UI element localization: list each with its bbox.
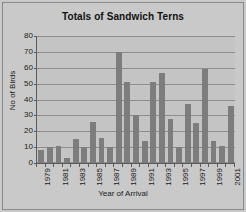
bar-slot	[46, 36, 55, 163]
bar-2001	[228, 106, 234, 163]
x-tick-mark	[139, 164, 140, 167]
x-tick-label-1991: 1991	[148, 168, 156, 186]
bar-slot	[175, 36, 184, 163]
x-axis-title: Year of Arrival	[0, 189, 246, 198]
bar-1995	[176, 147, 182, 163]
x-tick-mark	[88, 164, 89, 167]
y-tick-label-0: 0	[29, 159, 33, 167]
bar-1992	[150, 82, 156, 163]
bar-2000	[219, 146, 225, 163]
x-tick-mark	[131, 164, 132, 167]
bar-1991	[142, 141, 148, 163]
y-tick-label-50: 50	[24, 80, 33, 88]
bar-slot	[218, 36, 227, 163]
bar-slot	[166, 36, 175, 163]
x-tick-mark	[105, 164, 106, 167]
bar-1990	[133, 115, 139, 163]
x-tick-label-1979: 1979	[44, 168, 52, 186]
bar-slot	[37, 36, 46, 163]
bar-1987	[107, 147, 113, 163]
chart-screenshot: Totals of Sandwich Terns No of Birds 010…	[0, 0, 246, 212]
y-tick-label-10: 10	[24, 143, 33, 151]
bar-slot	[114, 36, 123, 163]
plot-wrapper: 01020304050607080 1979198119831985198719…	[36, 36, 234, 163]
bar-series	[37, 36, 235, 163]
bar-slot	[149, 36, 158, 163]
bar-slot	[106, 36, 115, 163]
x-tick-mark	[70, 164, 71, 167]
y-tick-label-80: 80	[24, 32, 33, 40]
bar-1993	[159, 73, 165, 163]
x-tick-mark	[182, 164, 183, 167]
x-tick-mark	[200, 164, 201, 167]
chart-title: Totals of Sandwich Terns	[0, 11, 246, 22]
bar-1981	[56, 146, 62, 163]
bar-slot	[209, 36, 218, 163]
bar-slot	[140, 36, 149, 163]
bar-slot	[192, 36, 201, 163]
bar-slot	[89, 36, 98, 163]
bar-slot	[54, 36, 63, 163]
x-tick-label-2001: 2001	[234, 168, 242, 186]
bar-1998	[202, 69, 208, 163]
bar-slot	[201, 36, 210, 163]
x-tick-mark	[122, 164, 123, 167]
bar-1979	[38, 150, 44, 163]
x-tick-mark	[62, 164, 63, 167]
bar-slot	[123, 36, 132, 163]
y-tick-label-70: 70	[24, 48, 33, 56]
x-tick-mark	[36, 164, 37, 167]
bar-1980	[47, 147, 53, 163]
bar-slot	[226, 36, 235, 163]
x-tick-label-1999: 1999	[216, 168, 224, 186]
x-tick-mark	[165, 164, 166, 167]
x-tick-mark	[217, 164, 218, 167]
x-tick-mark	[174, 164, 175, 167]
bar-slot	[97, 36, 106, 163]
y-tick-label-60: 60	[24, 64, 33, 72]
x-tick-mark	[157, 164, 158, 167]
x-tick-mark	[148, 164, 149, 167]
x-tick-label-1987: 1987	[113, 168, 121, 186]
x-tick-label-1989: 1989	[130, 168, 138, 186]
x-tick-label-1981: 1981	[62, 168, 70, 186]
bar-slot	[183, 36, 192, 163]
x-tick-mark	[208, 164, 209, 167]
bar-slot	[80, 36, 89, 163]
x-tick-mark	[113, 164, 114, 167]
bar-1999	[211, 141, 217, 163]
x-tick-label-1985: 1985	[96, 168, 104, 186]
x-tick-label-1995: 1995	[182, 168, 190, 186]
bar-slot	[132, 36, 141, 163]
plot-area: 01020304050607080	[36, 36, 235, 164]
bar-slot	[158, 36, 167, 163]
bar-1996	[185, 104, 191, 163]
bar-slot	[63, 36, 72, 163]
bar-1985	[90, 122, 96, 163]
bar-1983	[73, 139, 79, 163]
bar-1994	[168, 119, 174, 163]
x-tick-label-1993: 1993	[165, 168, 173, 186]
bar-1982	[64, 158, 70, 163]
x-tick-mark	[96, 164, 97, 167]
x-tick-mark	[79, 164, 80, 167]
bar-1988	[116, 52, 122, 163]
x-tick-mark	[53, 164, 54, 167]
x-tick-mark	[234, 164, 235, 167]
y-tick-label-40: 40	[24, 96, 33, 104]
bar-1984	[81, 147, 87, 163]
bar-1986	[99, 138, 105, 163]
bar-1989	[124, 82, 130, 163]
y-tick-label-30: 30	[24, 111, 33, 119]
y-axis-title: No of Birds	[8, 56, 17, 126]
x-tick-mark	[45, 164, 46, 167]
y-tick-label-20: 20	[24, 127, 33, 135]
x-tick-label-1997: 1997	[199, 168, 207, 186]
bar-1997	[193, 123, 199, 163]
x-tick-label-1983: 1983	[79, 168, 87, 186]
x-tick-mark	[225, 164, 226, 167]
x-tick-mark	[191, 164, 192, 167]
bar-slot	[71, 36, 80, 163]
